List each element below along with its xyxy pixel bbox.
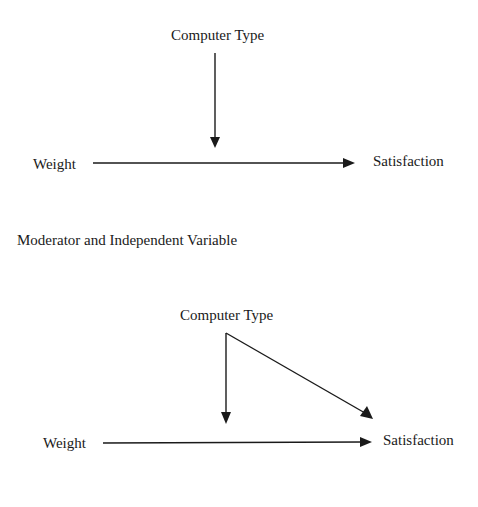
diagram2-direct-arrow <box>103 437 372 447</box>
diagram2-moderation-arrow <box>221 333 231 424</box>
diagram2-moderator-to-dependent-arrow <box>226 333 373 419</box>
diagram1-direct-arrow <box>93 158 355 168</box>
arrows-layer <box>0 0 478 507</box>
diagram1-moderation-arrow <box>210 53 220 148</box>
